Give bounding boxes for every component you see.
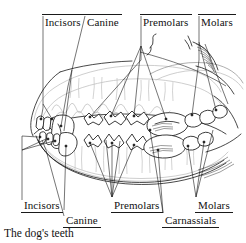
label-molars-top: Molars	[198, 14, 236, 28]
label-carnassials-bottom: Carnassials	[162, 214, 219, 228]
label-molars-bottom: Molars	[195, 199, 233, 213]
label-canine-top: Canine	[84, 14, 122, 28]
skull-squiggle	[147, 34, 156, 55]
dog-teeth-figure: Incisors Canine Premolars Molars Incisor…	[0, 0, 246, 243]
label-incisors-top: Incisors	[42, 14, 84, 28]
figure-caption: The dog's teeth	[4, 227, 74, 239]
label-canine-bottom: Canine	[63, 214, 101, 228]
label-premolars-bottom: Premolars	[111, 199, 163, 213]
label-premolars-top: Premolars	[140, 14, 192, 28]
label-incisors-bottom: Incisors	[21, 199, 63, 213]
